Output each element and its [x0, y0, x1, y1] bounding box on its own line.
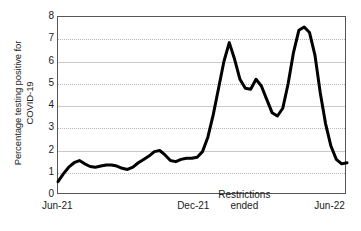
x-tick-label-dec-21: Dec-21: [177, 200, 209, 211]
annotation-line2: ended: [206, 200, 282, 211]
series-polyline: [58, 27, 347, 182]
y-tick-label-7: 7: [42, 33, 54, 43]
y-tick-label-0: 0: [42, 189, 54, 199]
y-axis-title: Percentage testing positive for COVID-19: [12, 13, 42, 193]
y-tick-label-6: 6: [42, 56, 54, 66]
covid-positivity-line-chart: Percentage testing positive for COVID-19…: [0, 0, 361, 231]
x-tick-label-jun-21: Jun-21: [42, 200, 73, 211]
y-tick-label-5: 5: [42, 78, 54, 88]
data-series-line: [58, 17, 347, 195]
y-tick-label-3: 3: [42, 122, 54, 132]
y-tick-label-1: 1: [42, 167, 54, 177]
y-tick-label-4: 4: [42, 100, 54, 110]
annotation-restrictions-ended: Restrictions ended: [206, 189, 282, 211]
plot-area: [57, 16, 346, 194]
y-axis-title-line1: Percentage testing positive for: [12, 13, 24, 193]
x-tick-label-jun-22: Jun-22: [314, 200, 345, 211]
y-axis-ticks: 012345678: [40, 0, 54, 231]
y-tick-label-8: 8: [42, 11, 54, 21]
y-axis-title-line2: COVID-19: [24, 13, 36, 193]
annotation-line1: Restrictions: [206, 189, 282, 200]
y-tick-label-2: 2: [42, 145, 54, 155]
